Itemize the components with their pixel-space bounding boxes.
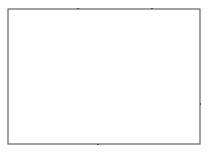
slip-diagram-canvas bbox=[0, 0, 214, 160]
figure-frame bbox=[8, 9, 200, 144]
slip-diagram-figure bbox=[0, 0, 214, 160]
